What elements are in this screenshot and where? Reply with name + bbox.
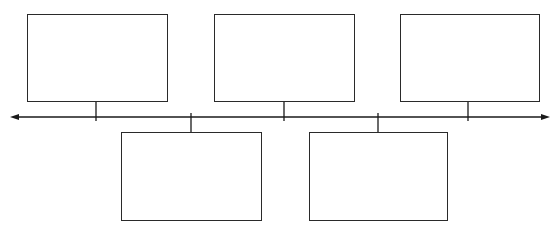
right-arrowhead-icon <box>541 114 550 120</box>
left-arrowhead-icon <box>10 114 19 120</box>
event-box-1[interactable] <box>27 14 168 102</box>
event-box-5[interactable] <box>400 14 540 102</box>
event-box-4[interactable] <box>309 132 448 221</box>
event-box-3[interactable] <box>214 14 355 102</box>
event-box-2[interactable] <box>121 132 262 221</box>
